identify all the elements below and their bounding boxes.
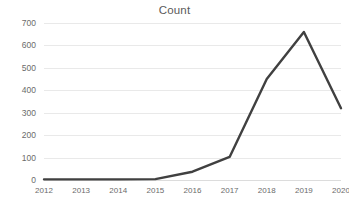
x-tick-label-2019: 2019 xyxy=(295,186,313,195)
y-tick-label-100: 100 xyxy=(6,153,36,163)
x-tick-label-2013: 2013 xyxy=(72,186,90,195)
y-tick-label-500: 500 xyxy=(6,63,36,73)
x-tick-label-2012: 2012 xyxy=(35,186,53,195)
y-tick-label-0: 0 xyxy=(6,175,36,185)
x-tick-label-2015: 2015 xyxy=(146,186,164,195)
x-tick-label-2017: 2017 xyxy=(221,186,239,195)
x-tick-label-2020: 2020 xyxy=(332,186,349,195)
chart-title: Count xyxy=(0,4,349,16)
x-tick-label-2018: 2018 xyxy=(258,186,276,195)
line-chart: Count 0100200300400500600700 20122013201… xyxy=(0,0,349,209)
plot-area xyxy=(44,23,341,180)
y-tick-label-300: 300 xyxy=(6,108,36,118)
x-tick-label-2016: 2016 xyxy=(184,186,202,195)
x-tick-label-2014: 2014 xyxy=(109,186,127,195)
y-tick-label-400: 400 xyxy=(6,85,36,95)
y-tick-label-200: 200 xyxy=(6,130,36,140)
y-tick-label-700: 700 xyxy=(6,18,36,28)
series-polyline xyxy=(44,32,341,179)
series-line-count xyxy=(44,23,341,180)
y-tick-label-600: 600 xyxy=(6,40,36,50)
